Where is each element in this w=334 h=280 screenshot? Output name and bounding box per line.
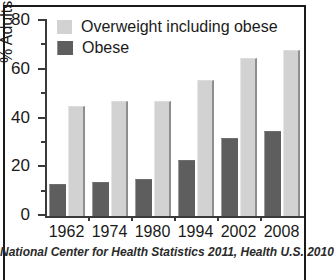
y-axis-tick-label: 20 [11, 156, 30, 176]
legend-item-obese: Obese [57, 38, 278, 57]
bar-overweight [240, 58, 257, 216]
x-axis-tick-label: 2002 [221, 223, 257, 241]
bar-overweight [197, 80, 214, 217]
x-axis-tick [174, 216, 176, 221]
bar-obese [49, 184, 66, 216]
y-axis-tick-major: 0 [38, 214, 45, 216]
legend-swatch-obese-icon [57, 41, 73, 55]
bar-obese [92, 182, 109, 216]
legend-label-overweight: Overweight including obese [81, 18, 278, 36]
bar-obese [178, 160, 195, 216]
x-axis-tick-label: 1994 [178, 223, 214, 241]
bar-overweight [283, 50, 300, 216]
bar-overweight [68, 106, 85, 216]
bar-obese [135, 179, 152, 216]
y-axis-tick-major: 60 [38, 68, 45, 70]
x-axis-tick [260, 216, 262, 221]
chart-legend: Overweight including obese Obese [57, 17, 278, 59]
y-axis-tick-major: 80 [38, 19, 45, 21]
x-axis-tick-label: 1974 [92, 223, 128, 241]
y-axis-tick-label: 80 [11, 10, 30, 30]
y-axis-tick-major: 20 [38, 165, 45, 167]
x-axis-tick-label: 2008 [264, 223, 300, 241]
bar-obese [221, 138, 238, 216]
x-axis-tick-label: 1962 [49, 223, 85, 241]
bar-overweight [111, 101, 128, 216]
x-axis-tick [217, 216, 219, 221]
y-axis-tick-label: 40 [11, 108, 30, 128]
source-footnote: National Center for Health Statistics 20… [0, 245, 311, 259]
x-axis-tick [131, 216, 133, 221]
legend-swatch-overweight-icon [57, 20, 72, 34]
y-axis-tick-label: 60 [11, 59, 30, 79]
y-axis-tick-major: 40 [38, 117, 45, 119]
bar-obese [264, 131, 281, 216]
bar-overweight [154, 101, 171, 216]
legend-item-overweight: Overweight including obese [57, 17, 278, 36]
legend-label-obese: Obese [82, 39, 129, 57]
y-axis-tick-label: 0 [21, 205, 30, 225]
x-axis-tick-label: 1980 [135, 223, 171, 241]
x-axis-tick [88, 216, 90, 221]
